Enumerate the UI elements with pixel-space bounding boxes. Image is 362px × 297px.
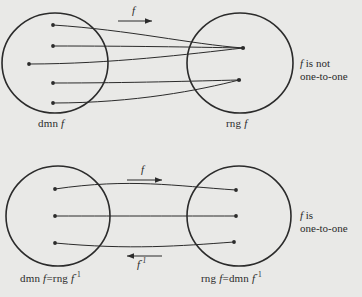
note-line-1-text: f is: [300, 209, 313, 221]
map-arrow-label-bottom-text: f: [141, 163, 144, 175]
domain-point: [51, 101, 55, 105]
note-line-2: one-to-one: [300, 70, 348, 83]
range-point: [241, 46, 245, 50]
range-label-top: rng f: [226, 117, 247, 129]
range-point: [234, 188, 238, 192]
domain-point: [53, 187, 57, 191]
map-arrow-top: [118, 18, 152, 23]
panel-one-to-one: [6, 166, 291, 266]
domain-point: [53, 214, 57, 218]
domain-label-top-text: dmn f: [38, 117, 64, 129]
mapping-edge: [55, 183, 236, 190]
map-arrow-label-bottom: f: [141, 163, 144, 175]
mapping-edge: [53, 80, 239, 83]
figure-canvas: dmn f rng f f f is not one-to-one dmn f=…: [0, 0, 362, 297]
note-not-one-to-one: f is not one-to-one: [300, 57, 348, 83]
domain-label-bottom-sup: -1: [74, 270, 81, 279]
mapping-edge: [53, 46, 243, 48]
note-line-2: one-to-one: [300, 222, 348, 235]
mapping-edge: [55, 242, 234, 247]
note-line-1-text: f is not: [300, 57, 330, 69]
domain-point: [27, 62, 31, 66]
domain-label-bottom-text: dmn f=rng f: [20, 272, 74, 284]
note-line-2-text: one-to-one: [300, 70, 348, 82]
domain-point: [51, 23, 55, 27]
inverse-arrow-label-bottom: f-1: [137, 258, 146, 270]
domain-point: [51, 81, 55, 85]
panel-not-one-to-one: [2, 13, 293, 113]
range-circle-top: [187, 13, 293, 113]
domain-label-top: dmn f: [38, 117, 64, 129]
range-label-bottom-text: rng f=dmn f: [201, 272, 255, 284]
range-point: [234, 214, 238, 218]
mapping-edge: [53, 80, 239, 103]
function-mapping-diagram: [0, 0, 362, 297]
range-point: [237, 78, 241, 82]
range-label-bottom-sup: -1: [255, 270, 262, 279]
inverse-arrow-label-bottom-sup: -1: [140, 256, 146, 265]
note-line-1: f is: [300, 209, 348, 222]
mapping-edge: [29, 48, 243, 64]
domain-point: [53, 241, 57, 245]
note-one-to-one: f is one-to-one: [300, 209, 348, 235]
map-arrow-label-top: f: [132, 4, 135, 16]
range-point: [232, 240, 236, 244]
domain-point: [51, 44, 55, 48]
range-label-top-text: rng f: [226, 117, 247, 129]
domain-circle-top: [2, 13, 108, 113]
note-line-2-text: one-to-one: [300, 222, 348, 234]
note-line-1: f is not: [300, 57, 348, 70]
map-arrow-bottom: [127, 177, 162, 182]
range-label-bottom: rng f=dmn f-1: [201, 272, 262, 284]
map-arrow-label-top-text: f: [132, 4, 135, 16]
domain-label-bottom: dmn f=rng f-1: [20, 272, 81, 284]
mapping-edge: [53, 25, 243, 48]
